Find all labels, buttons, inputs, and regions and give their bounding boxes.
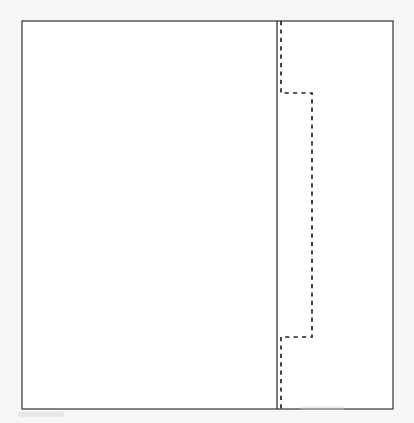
line-diagram-svg bbox=[0, 0, 414, 423]
figure-container: Stepped dashed profile within rectangula… bbox=[0, 0, 414, 423]
bottom-center-smudge bbox=[300, 406, 344, 410]
boundary-rectangle bbox=[22, 21, 393, 409]
bottom-left-smudge bbox=[18, 412, 64, 417]
